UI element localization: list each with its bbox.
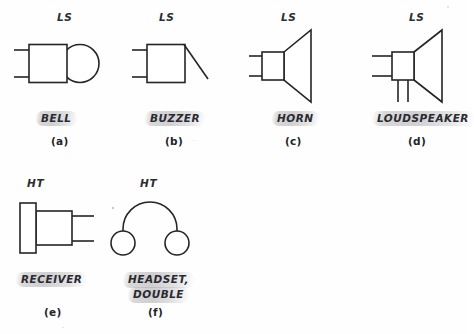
horn-driver-body bbox=[262, 52, 284, 80]
receiver-body bbox=[36, 211, 72, 245]
symbol-name-headset-line1: HEADSET, bbox=[123, 272, 194, 288]
scan-speck bbox=[193, 140, 195, 141]
symbol-name-horn: HORN bbox=[272, 111, 319, 126]
headset-earpiece-right bbox=[165, 231, 189, 255]
symbol-caption-horn: (c) bbox=[285, 135, 302, 147]
symbol-caption-buzzer: (b) bbox=[165, 135, 183, 147]
loudspeaker-driver-body bbox=[392, 52, 414, 80]
horn-svg bbox=[249, 26, 349, 106]
symbol-caption-loudspeaker: (d) bbox=[408, 135, 426, 147]
symbol-name-bell: BELL bbox=[36, 111, 77, 126]
symbol-name-buzzer: BUZZER bbox=[145, 111, 205, 126]
bell-symbol-graphic bbox=[14, 34, 118, 96]
buzzer-diagonal-arm bbox=[184, 45, 208, 80]
symbol-name-loudspeaker: LOUDSPEAKER bbox=[372, 111, 474, 126]
bell-svg bbox=[14, 34, 118, 96]
symbol-caption-headset: (f) bbox=[148, 306, 163, 318]
scan-speck bbox=[62, 327, 64, 328]
receiver-earpiece-bar bbox=[20, 203, 36, 253]
loudspeaker-cone bbox=[414, 30, 442, 102]
symbol-tag-buzzer: LS bbox=[159, 11, 174, 23]
horn-cone bbox=[284, 30, 311, 102]
symbol-caption-receiver: (e) bbox=[44, 306, 62, 318]
horn-symbol-graphic bbox=[249, 26, 349, 106]
headset-earpiece-left bbox=[111, 231, 135, 255]
receiver-symbol-graphic bbox=[16, 198, 108, 262]
buzzer-symbol-graphic bbox=[132, 34, 236, 96]
headset-headband-arch bbox=[123, 202, 177, 236]
receiver-svg bbox=[16, 198, 108, 262]
buzzer-svg bbox=[132, 34, 236, 96]
symbol-tag-horn: LS bbox=[281, 11, 296, 23]
bell-body-square bbox=[29, 45, 67, 83]
headset-svg bbox=[111, 196, 207, 258]
symbol-name-receiver: RECEIVER bbox=[16, 272, 87, 287]
scan-speck bbox=[447, 6, 449, 8]
symbol-caption-bell: (a) bbox=[51, 135, 69, 147]
loudspeaker-symbol-graphic bbox=[372, 26, 472, 108]
symbol-tag-headset: HT bbox=[140, 177, 157, 189]
headset-symbol-graphic bbox=[111, 196, 207, 258]
symbol-tag-receiver: HT bbox=[27, 177, 44, 189]
symbol-tag-loudspeaker: LS bbox=[409, 11, 424, 23]
symbol-name-headset-line2: DOUBLE bbox=[128, 287, 189, 303]
loudspeaker-svg bbox=[372, 26, 472, 108]
buzzer-body-square bbox=[147, 45, 185, 83]
symbol-tag-bell: LS bbox=[57, 11, 72, 23]
